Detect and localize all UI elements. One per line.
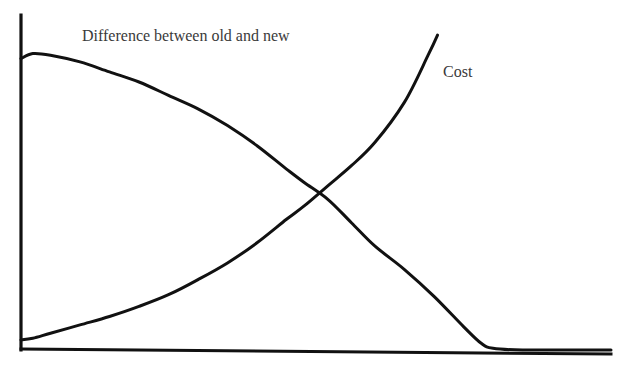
difference-label: Difference between old and new xyxy=(82,28,290,44)
chart-container: Difference between old and new Cost xyxy=(0,0,623,379)
line-chart xyxy=(0,0,623,379)
cost-curve xyxy=(21,35,438,340)
cost-label: Cost xyxy=(443,64,472,80)
difference-curve xyxy=(21,53,611,350)
